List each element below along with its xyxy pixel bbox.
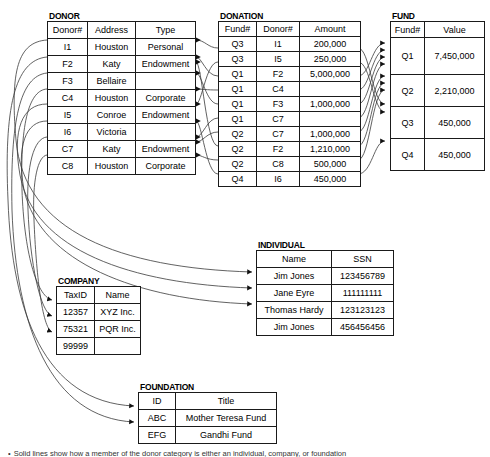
- fund-table: Fund# Value Q17,450,000 Q22,210,000 Q345…: [390, 21, 485, 171]
- table-row: Q22,210,000: [391, 75, 485, 107]
- table-row: I5ConroeEndowment: [48, 107, 196, 124]
- cell: 7,450,000: [425, 38, 485, 75]
- cell: I6: [257, 172, 300, 187]
- cell: [300, 82, 361, 97]
- entity-fund: FUND Fund# Value Q17,450,000 Q22,210,000…: [390, 11, 485, 171]
- cell: Q2: [391, 75, 425, 107]
- cell: 111111111: [332, 285, 394, 302]
- cell: F2: [48, 56, 88, 73]
- cell: Endowment: [136, 107, 196, 124]
- entity-donor-title: DONOR: [47, 11, 196, 21]
- cell: I5: [48, 107, 88, 124]
- caption-bullet: •: [8, 449, 11, 457]
- table-row: Q2C8500,000: [219, 157, 361, 172]
- cell: Jane Eyre: [257, 285, 332, 302]
- cell: 200,000: [300, 37, 361, 52]
- cell: I1: [48, 39, 88, 56]
- table-row: C7KatyEndowment: [48, 141, 196, 158]
- cell: Q1: [391, 38, 425, 75]
- table-header-row: Fund# Value: [391, 22, 485, 38]
- cell: F2: [257, 142, 300, 157]
- cell: F2: [257, 67, 300, 82]
- cell: C8: [48, 158, 88, 175]
- table-row: Q4450,000: [391, 139, 485, 171]
- cell: Q4: [391, 139, 425, 171]
- table-row: Q2C71,000,000: [219, 127, 361, 142]
- table-row: EFGGandhi Fund: [139, 427, 277, 444]
- cell: 123456789: [332, 268, 394, 285]
- entity-individual-title: INDIVIDUAL: [256, 240, 394, 250]
- cell: 5,000,000: [300, 67, 361, 82]
- cell: Jim Jones: [257, 268, 332, 285]
- cell: 12357: [57, 304, 95, 321]
- donor-table: Donor# Address Type I1HoustonPersonal F2…: [47, 21, 196, 175]
- column-header: Name: [257, 251, 332, 268]
- column-header: Title: [176, 393, 277, 410]
- cell: I1: [257, 37, 300, 52]
- table-header-row: TaxID Name: [57, 287, 141, 304]
- table-row: I6Victoria: [48, 124, 196, 141]
- table-row: 12357XYZ Inc.: [57, 304, 141, 321]
- column-header: Type: [136, 22, 196, 39]
- column-header: Amount: [300, 22, 361, 37]
- table-header-row: Donor# Address Type: [48, 22, 196, 39]
- cell: Endowment: [136, 56, 196, 73]
- table-header-row: Name SSN: [257, 251, 394, 268]
- table-row: Q3I1200,000: [219, 37, 361, 52]
- cell: Endowment: [136, 141, 196, 158]
- entity-donation-title: DONATION: [218, 11, 361, 21]
- cell: 450,000: [300, 172, 361, 187]
- cell: Q4: [219, 172, 257, 187]
- table-row: Jim Jones456456456: [257, 319, 394, 336]
- table-row: C8HoustonCorporate: [48, 158, 196, 175]
- entity-foundation: FOUNDATION ID Title ABCMother Teresa Fun…: [138, 382, 277, 444]
- cell: [136, 73, 196, 90]
- cell: [95, 338, 141, 355]
- column-header: Address: [88, 22, 136, 39]
- cell: C4: [48, 90, 88, 107]
- table-row: F3Bellaire: [48, 73, 196, 90]
- cell: 1,000,000: [300, 97, 361, 112]
- entity-foundation-title: FOUNDATION: [138, 382, 277, 392]
- cell: Corporate: [136, 90, 196, 107]
- cell: Conroe: [88, 107, 136, 124]
- cell: C7: [257, 112, 300, 127]
- cell: Q1: [219, 97, 257, 112]
- table-row: Thomas Hardy123123123: [257, 302, 394, 319]
- table-row: Q1C7: [219, 112, 361, 127]
- table-row: I1HoustonPersonal: [48, 39, 196, 56]
- table-row: C4HoustonCorporate: [48, 90, 196, 107]
- entity-individual: INDIVIDUAL Name SSN Jim Jones123456789 J…: [256, 240, 394, 336]
- table-header-row: ID Title: [139, 393, 277, 410]
- cell: 75321: [57, 321, 95, 338]
- cell: Houston: [88, 158, 136, 175]
- cell: PQR Inc.: [95, 321, 141, 338]
- cell: Bellaire: [88, 73, 136, 90]
- cell: 1,000,000: [300, 127, 361, 142]
- table-row: Q3I5250,000: [219, 52, 361, 67]
- table-row: 75321PQR Inc.: [57, 321, 141, 338]
- cell: Corporate: [136, 158, 196, 175]
- individual-table: Name SSN Jim Jones123456789 Jane Eyre111…: [256, 250, 394, 336]
- cell: Q1: [219, 67, 257, 82]
- cell: 2,210,000: [425, 75, 485, 107]
- cell: [136, 124, 196, 141]
- column-header: TaxID: [57, 287, 95, 304]
- cell: Mother Teresa Fund: [176, 410, 277, 427]
- table-row: Q2F21,210,000: [219, 142, 361, 157]
- column-header: Fund#: [219, 22, 257, 37]
- entity-company-title: COMPANY: [56, 276, 141, 286]
- cell: F3: [48, 73, 88, 90]
- table-row: Jane Eyre111111111: [257, 285, 394, 302]
- cell: 1,210,000: [300, 142, 361, 157]
- table-row: Q1F31,000,000: [219, 97, 361, 112]
- cell: Gandhi Fund: [176, 427, 277, 444]
- cell: Jim Jones: [257, 319, 332, 336]
- diagram-canvas: DONOR Donor# Address Type I1HoustonPerso…: [0, 0, 490, 457]
- cell: Q3: [219, 52, 257, 67]
- table-row: Q3450,000: [391, 107, 485, 139]
- cell: Q1: [219, 82, 257, 97]
- cell: C7: [48, 141, 88, 158]
- diagram-caption: •Solid lines show how a member of the do…: [8, 449, 486, 457]
- company-table: TaxID Name 12357XYZ Inc. 75321PQR Inc. 9…: [56, 286, 141, 355]
